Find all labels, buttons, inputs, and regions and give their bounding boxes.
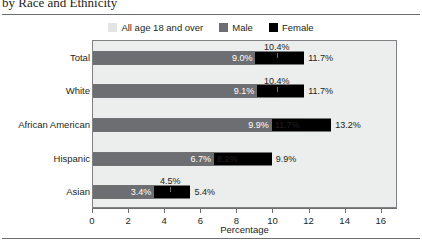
bar-label-female: 5.4% xyxy=(194,187,215,197)
x-axis: 0246810121416 xyxy=(92,208,397,210)
bar-label-female: 9.9% xyxy=(276,154,297,164)
chart-row: 9.1%11.7% xyxy=(93,75,396,109)
chart-legend: All age 18 and over Male Female xyxy=(0,22,422,33)
callout-leader-line xyxy=(170,187,171,192)
bar-label-male: 9.9% xyxy=(248,120,269,130)
x-axis-tick xyxy=(236,209,237,213)
x-axis-tick xyxy=(200,209,201,213)
legend-swatch-male-icon xyxy=(219,23,228,32)
y-axis-label-white: White xyxy=(2,85,90,96)
x-axis-tick xyxy=(381,209,382,213)
callout-leader-line xyxy=(277,53,278,58)
bar-label-all: 8.2% xyxy=(217,154,238,164)
x-axis-title: Percentage xyxy=(92,224,397,235)
bar-segment-male xyxy=(93,85,257,98)
y-axis-label-asian: Asian xyxy=(2,186,90,197)
bar-callout-all: 10.4% xyxy=(264,42,290,52)
bar-label-all: 11.7% xyxy=(275,120,300,130)
chart-row: 3.4%5.4% xyxy=(93,175,396,209)
x-axis-tick xyxy=(272,209,273,213)
header-divider xyxy=(2,14,420,15)
plot-area: 9.0%11.7%10.4%9.1%11.7%10.4%9.9%13.2%11.… xyxy=(92,40,397,208)
x-axis-tick xyxy=(164,209,165,213)
x-axis-tick xyxy=(309,209,310,213)
callout-leader-line xyxy=(277,87,278,92)
bar-label-male: 9.0% xyxy=(232,53,253,63)
chart-row: 9.0%11.7% xyxy=(93,41,396,75)
chart-row: 6.7%9.9%8.2% xyxy=(93,142,396,176)
bar-label-female: 11.7% xyxy=(308,53,333,63)
bar-label-male: 3.4% xyxy=(131,187,152,197)
legend-swatch-female-icon xyxy=(269,23,278,32)
x-axis-tick xyxy=(128,209,129,213)
chart-row: 9.9%13.2%11.7% xyxy=(93,108,396,142)
legend-swatch-all-icon xyxy=(108,23,117,32)
y-axis-label-hispanic: Hispanic xyxy=(2,152,90,163)
y-axis-labels: TotalWhiteAfrican AmericanHispanicAsian xyxy=(0,40,90,208)
x-axis-tick xyxy=(345,209,346,213)
legend-label-all: All age 18 and over xyxy=(121,22,203,33)
footer-divider xyxy=(2,238,420,239)
bar-callout-all: 10.4% xyxy=(264,76,290,86)
bar-label-male: 6.7% xyxy=(190,154,211,164)
bar-label-male: 9.1% xyxy=(234,86,255,96)
bar-segment-male xyxy=(93,118,272,131)
x-axis-tick xyxy=(92,209,93,213)
page-title: by Race and Ethnicity xyxy=(2,0,117,11)
legend-item-all: All age 18 and over xyxy=(108,22,203,33)
legend-item-male: Male xyxy=(219,22,253,33)
y-axis-label-total: Total xyxy=(2,51,90,62)
legend-label-male: Male xyxy=(232,22,253,33)
y-axis-label-african-american: African American xyxy=(2,119,90,130)
bar-label-female: 11.7% xyxy=(308,86,333,96)
bar-label-female: 13.2% xyxy=(335,120,361,130)
legend-label-female: Female xyxy=(282,22,314,33)
bar-callout-all: 4.5% xyxy=(160,176,181,186)
legend-item-female: Female xyxy=(269,22,314,33)
